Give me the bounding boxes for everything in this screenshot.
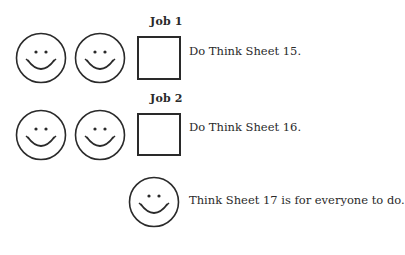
job-2-instruction: Do Think Sheet 16. [189,120,301,134]
job-1-label: Job 1 [150,15,183,28]
job-1-checkbox[interactable] [137,36,181,80]
job-1-instruction: Do Think Sheet 15. [189,44,301,58]
smiley-face-icon [74,109,126,161]
smiley-face-icon [74,32,126,84]
job-2-checkbox[interactable] [137,113,181,156]
smiley-face-icon [128,176,180,228]
job-2-label: Job 2 [150,92,183,105]
smiley-face-icon [15,32,67,84]
smiley-face-icon [15,109,67,161]
everyone-instruction: Think Sheet 17 is for everyone to do. [189,193,405,207]
